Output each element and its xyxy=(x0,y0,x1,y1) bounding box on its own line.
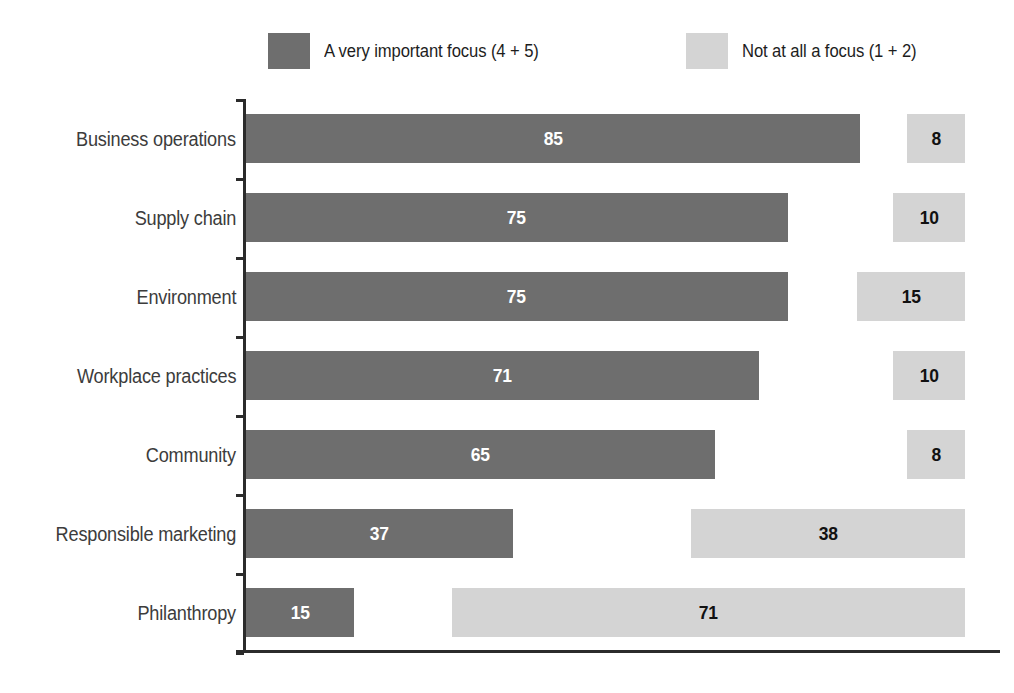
category-label: Philanthropy xyxy=(137,601,236,624)
bar-not-at-all-a-focus: 8 xyxy=(907,430,965,479)
bar-not-at-all-a-focus: 10 xyxy=(893,193,965,242)
bar-row: Supply chain7510 xyxy=(0,178,1014,257)
bar-value-label: 15 xyxy=(901,286,920,308)
bar-value-label: 75 xyxy=(507,207,526,229)
bar-very-important-focus: 37 xyxy=(246,509,513,558)
category-label: Responsible marketing xyxy=(55,522,236,545)
bar-value-label: 38 xyxy=(818,523,837,545)
bar-value-label: 15 xyxy=(291,602,310,624)
bar-very-important-focus: 75 xyxy=(246,272,788,321)
category-label: Community xyxy=(146,443,236,466)
bar-value-label: 10 xyxy=(919,207,938,229)
bar-row: Philanthropy1571 xyxy=(0,573,1014,652)
bar-not-at-all-a-focus: 15 xyxy=(857,272,965,321)
y-axis-tick xyxy=(236,652,244,655)
bar-value-label: 85 xyxy=(543,128,562,150)
bar-very-important-focus: 15 xyxy=(246,588,354,637)
bar-not-at-all-a-focus: 8 xyxy=(907,114,965,163)
bar-value-label: 8 xyxy=(931,444,940,466)
bar-not-at-all-a-focus: 38 xyxy=(691,509,965,558)
bar-very-important-focus: 71 xyxy=(246,351,759,400)
bar-value-label: 71 xyxy=(699,602,718,624)
bar-very-important-focus: 75 xyxy=(246,193,788,242)
bar-row: Environment7515 xyxy=(0,257,1014,336)
bar-value-label: 71 xyxy=(493,365,512,387)
category-label: Business operations xyxy=(76,127,236,150)
bar-not-at-all-a-focus: 10 xyxy=(893,351,965,400)
bar-value-label: 10 xyxy=(919,365,938,387)
bar-very-important-focus: 65 xyxy=(246,430,715,479)
bar-not-at-all-a-focus: 71 xyxy=(452,588,965,637)
bar-value-label: 8 xyxy=(931,128,940,150)
bar-value-label: 37 xyxy=(370,523,389,545)
bar-row: Responsible marketing3738 xyxy=(0,494,1014,573)
bar-row: Business operations858 xyxy=(0,99,1014,178)
plot-area: Business operations858Supply chain7510En… xyxy=(0,0,1014,693)
bar-very-important-focus: 85 xyxy=(246,114,860,163)
bar-value-label: 65 xyxy=(471,444,490,466)
bar-row: Community658 xyxy=(0,415,1014,494)
chart-root: A very important focus (4 + 5) Not at al… xyxy=(0,0,1014,693)
category-label: Environment xyxy=(136,285,236,308)
category-label: Workplace practices xyxy=(77,364,236,387)
bar-row: Workplace practices7110 xyxy=(0,336,1014,415)
bar-value-label: 75 xyxy=(507,286,526,308)
category-label: Supply chain xyxy=(134,206,236,229)
